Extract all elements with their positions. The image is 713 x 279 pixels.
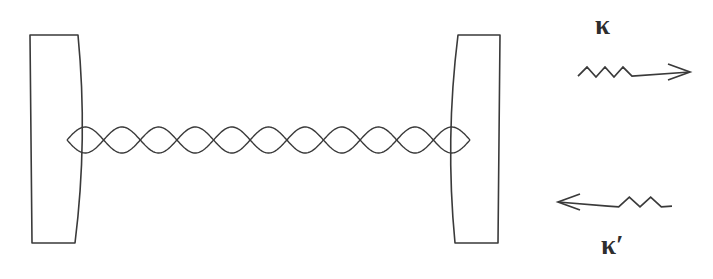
optical-cavity-figure: κ κ′ [0,0,713,279]
kappa-label: κ [595,12,610,39]
kappa-prime-label: κ′ [601,232,624,259]
